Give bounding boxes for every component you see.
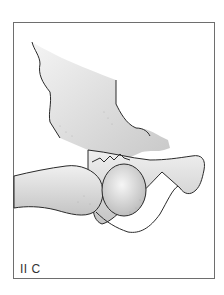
elbow-joint-illustration bbox=[0, 0, 224, 295]
humerus-bone bbox=[32, 42, 170, 160]
radial-head bbox=[102, 164, 146, 216]
figure-label: II C bbox=[20, 262, 41, 276]
radius-bone bbox=[14, 166, 103, 215]
